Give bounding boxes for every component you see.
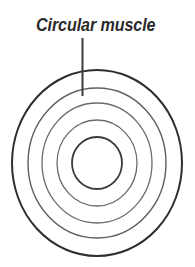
figure-background	[0, 0, 195, 267]
figure-root: Circular muscle	[0, 0, 195, 267]
circular-muscle-diagram	[0, 0, 195, 267]
